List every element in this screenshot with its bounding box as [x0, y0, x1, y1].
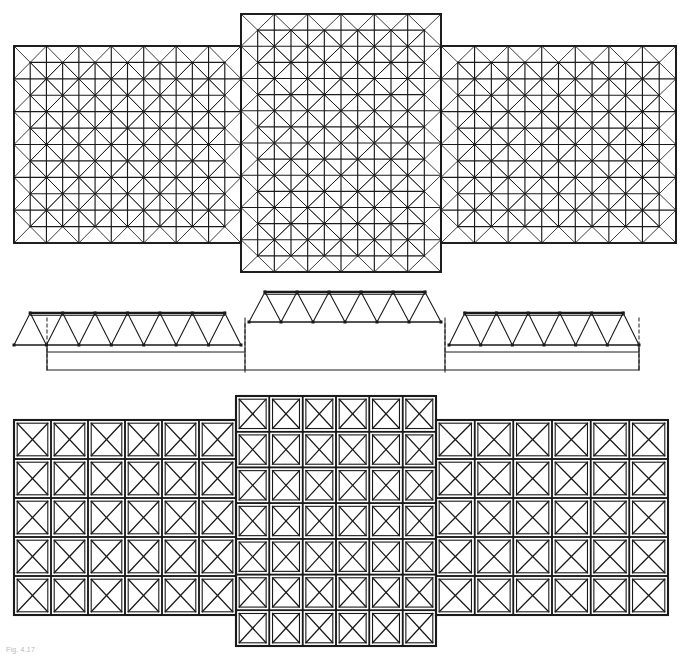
module-cell [403, 610, 436, 646]
web-diagonal [560, 313, 576, 345]
web-diagonal [265, 292, 281, 322]
truss-node [296, 291, 299, 294]
module-cell [269, 467, 302, 503]
truss-node [622, 312, 625, 315]
truss-node [191, 312, 194, 315]
web-diagonal [465, 313, 481, 345]
truss-node [344, 321, 347, 324]
truss-node [527, 312, 530, 315]
module-cell [51, 537, 88, 576]
module-cell [51, 459, 88, 498]
truss-node [240, 344, 243, 347]
web-diagonal [160, 313, 176, 345]
truss-right-truss [448, 312, 641, 347]
module-cell [236, 432, 269, 468]
truss-node [424, 291, 427, 294]
module-cell [125, 576, 162, 615]
module-cell [629, 537, 668, 576]
module-cell [303, 575, 336, 611]
web-diagonal [497, 313, 513, 345]
plan-segment-right-wing [436, 420, 668, 615]
web-diagonal [192, 313, 208, 345]
web-diagonal [111, 313, 127, 345]
module-cell [88, 498, 125, 537]
module-cell [269, 432, 302, 468]
module-cell [403, 539, 436, 575]
plan-segment-left-wing [14, 46, 241, 243]
web-diagonal [144, 313, 160, 345]
module-cell [199, 576, 236, 615]
web-diagonal [409, 292, 425, 322]
module-cell [125, 420, 162, 459]
view-longitudinal-section [13, 291, 641, 373]
module-cell [475, 537, 514, 576]
module-cell [125, 498, 162, 537]
module-cell [436, 420, 475, 459]
truss-node [77, 344, 80, 347]
module-cell [403, 503, 436, 539]
module-cell [88, 576, 125, 615]
web-diagonal [313, 292, 329, 322]
module-cell [629, 459, 668, 498]
view-top-chord-plan [14, 14, 676, 272]
module-cell [236, 503, 269, 539]
module-cell [403, 396, 436, 432]
module-cell [475, 498, 514, 537]
module-cell [475, 420, 514, 459]
web-diagonal [592, 313, 608, 345]
module-cell [14, 537, 51, 576]
module-cell [369, 396, 402, 432]
truss-left-truss [13, 312, 243, 347]
web-diagonal [345, 292, 361, 322]
web-diagonal [297, 292, 313, 322]
truss-node [142, 344, 145, 347]
web-diagonal [329, 292, 345, 322]
module-cell [51, 498, 88, 537]
module-cell [269, 539, 302, 575]
truss-node [248, 321, 251, 324]
module-cell [369, 539, 402, 575]
module-cell [199, 537, 236, 576]
module-cell [403, 575, 436, 611]
web-diagonal [361, 292, 377, 322]
module-cell [269, 503, 302, 539]
web-diagonal [249, 292, 265, 322]
module-cell [14, 498, 51, 537]
module-cell [475, 576, 514, 615]
module-cell [303, 539, 336, 575]
module-cell [236, 575, 269, 611]
module-cell [88, 420, 125, 459]
truss-node [312, 321, 315, 324]
module-cell [591, 459, 630, 498]
web-diagonal [176, 313, 192, 345]
truss-node [463, 312, 466, 315]
web-diagonal [623, 313, 639, 345]
truss-node [61, 312, 64, 315]
module-cell [369, 467, 402, 503]
module-cell [552, 537, 591, 576]
web-diagonal [79, 313, 95, 345]
module-cell [336, 503, 369, 539]
web-diagonal [281, 292, 297, 322]
truss-node [543, 344, 546, 347]
truss-node [511, 344, 514, 347]
figure-caption: Fig. 4.17 [6, 645, 35, 654]
module-cell [475, 459, 514, 498]
module-cell [14, 576, 51, 615]
web-diagonal [607, 313, 623, 345]
module-cell [162, 420, 199, 459]
module-cell [436, 576, 475, 615]
module-cell [125, 459, 162, 498]
module-cell [552, 498, 591, 537]
truss-node [590, 312, 593, 315]
truss-node [94, 312, 97, 315]
module-cell [199, 420, 236, 459]
truss-node [175, 344, 178, 347]
module-cell [369, 432, 402, 468]
web-diagonal [576, 313, 592, 345]
truss-node [110, 344, 113, 347]
module-cell [369, 575, 402, 611]
module-cell [269, 575, 302, 611]
truss-node [158, 312, 161, 315]
truss-node [392, 291, 395, 294]
